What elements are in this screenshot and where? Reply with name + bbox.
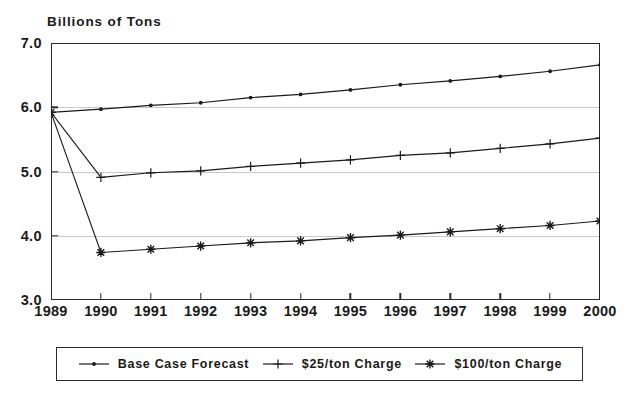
x-tick-mark: [549, 293, 550, 300]
legend-label: $100/ton Charge: [454, 357, 562, 371]
x-tick-label: 1990: [84, 303, 117, 319]
x-tick-mark: [450, 293, 451, 300]
gridline-6: [52, 107, 599, 108]
y-tick-label: 5.0: [21, 164, 42, 180]
x-tick-label: 1999: [533, 303, 566, 319]
x-tick-mark: [499, 293, 500, 300]
x-tick-label: 2000: [583, 303, 616, 319]
legend-label: Base Case Forecast: [118, 357, 249, 371]
legend-entry-1: $25/ton Charge: [261, 357, 402, 371]
asterisk-marker: [413, 357, 447, 371]
x-tick-mark: [300, 293, 301, 300]
x-tick-mark: [250, 293, 251, 300]
x-tick-label: 1989: [34, 303, 67, 319]
gridline-5: [52, 172, 599, 173]
y-tick-mark: [51, 235, 58, 236]
x-tick-mark: [100, 293, 101, 300]
x-tick-label: 1991: [134, 303, 167, 319]
legend-label: $25/ton Charge: [302, 357, 402, 371]
y-axis-title: Billions of Tons: [47, 14, 162, 29]
gridline-4: [52, 236, 599, 237]
chart-figure: Billions of Tons 3.04.05.06.07.0 1989199…: [0, 0, 638, 408]
plot-area: [51, 43, 600, 300]
x-tick-label: 1992: [184, 303, 217, 319]
x-tick-mark: [350, 293, 351, 300]
x-tick-label: 1996: [384, 303, 417, 319]
y-tick-label: 6.0: [21, 99, 42, 115]
y-tick-mark: [51, 171, 58, 172]
dot-marker: [77, 357, 111, 371]
x-tick-label: 1995: [334, 303, 367, 319]
x-tick-mark: [400, 293, 401, 300]
plus-marker: [261, 357, 295, 371]
x-tick-label: 1998: [483, 303, 516, 319]
x-tick-mark: [200, 293, 201, 300]
legend-entry-0: Base Case Forecast: [77, 357, 249, 371]
x-tick-mark: [150, 293, 151, 300]
x-tick-label: 1994: [284, 303, 317, 319]
x-tick-label: 1993: [234, 303, 267, 319]
y-tick-label: 7.0: [21, 35, 42, 51]
x-tick-label: 1997: [434, 303, 467, 319]
y-tick-mark: [51, 107, 58, 108]
y-tick-label: 4.0: [21, 228, 42, 244]
legend-entry-2: $100/ton Charge: [413, 357, 562, 371]
chart-legend: Base Case Forecast$25/ton Charge$100/ton…: [56, 347, 583, 381]
